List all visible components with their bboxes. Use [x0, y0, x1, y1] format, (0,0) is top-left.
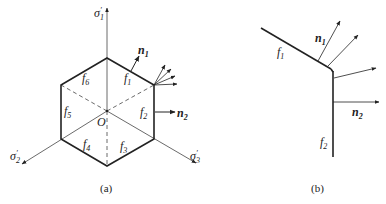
sigma3-label: σ3′ [190, 149, 200, 165]
figure-b: n1 n2 f1 f2 (b) [261, 21, 379, 195]
n1-label: n1 [315, 31, 326, 47]
n2-label: n2 [352, 105, 363, 121]
corner-normal-arrow [154, 65, 165, 85]
n2-label: n2 [177, 106, 188, 122]
face-f1-label: f1 [277, 45, 284, 61]
corner-normal-arrow [154, 76, 175, 85]
corner-normal-arrow [334, 68, 376, 78]
origin-point [106, 110, 109, 113]
caption-b: (b) [311, 182, 324, 195]
corner-normal-arrow [328, 35, 358, 66]
face-f1-label: f1 [124, 71, 131, 87]
figure-canvas: σ1′ σ2′ σ3′ O f1 f2 f3 f4 f5 f6 n1 n2 (a… [0, 0, 386, 204]
dashed-line [61, 85, 107, 111]
n1-arrow [131, 56, 139, 71]
dashed-line [107, 85, 154, 111]
corner-joint [331, 69, 333, 72]
face-f6-label: f6 [82, 71, 89, 87]
sigma2-axis [22, 111, 107, 164]
face-f4-label: f4 [83, 137, 90, 153]
figure-a: σ1′ σ2′ σ3′ O f1 f2 f3 f4 f5 f6 n1 n2 (a… [10, 6, 200, 195]
face-f5-label: f5 [64, 104, 71, 120]
face-f2-label: f2 [140, 105, 147, 121]
sigma1-label: σ1′ [94, 6, 104, 22]
corner-normal-arrow [154, 69, 171, 85]
face-f3-label: f3 [120, 139, 127, 155]
n1-label: n1 [138, 43, 149, 59]
corner-normal-arrow [154, 84, 177, 85]
origin-label: O [97, 115, 106, 129]
caption-a: (a) [100, 182, 113, 195]
face-f2-label: f2 [320, 135, 327, 151]
sigma2-label: σ2′ [10, 149, 20, 165]
